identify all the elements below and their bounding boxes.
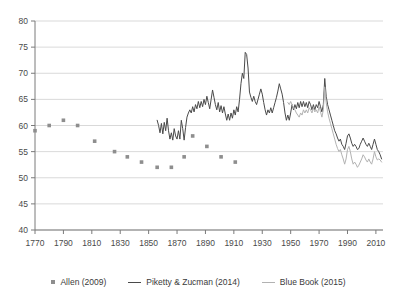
y-tick-label: 70	[19, 68, 29, 78]
x-tick-label: 1770	[26, 238, 45, 248]
square-marker-icon	[51, 280, 55, 284]
scatter-point-allen	[47, 124, 51, 128]
chart-legend: Allen (2009) Piketty & Zucman (2014) Blu…	[0, 277, 397, 287]
x-tick-label: 2010	[366, 238, 385, 248]
scatter-point-allen	[93, 139, 97, 143]
y-tick-label: 75	[19, 42, 29, 52]
x-tick-label: 1930	[253, 238, 272, 248]
chart-container: 4045505560657075801770179018101830185018…	[0, 0, 397, 293]
y-tick-label: 65	[19, 94, 29, 104]
x-tick-label: 1850	[139, 238, 158, 248]
x-tick-label: 1950	[281, 238, 300, 248]
y-tick-label: 80	[19, 16, 29, 26]
x-tick-label: 1790	[54, 238, 73, 248]
x-tick-label: 1890	[196, 238, 215, 248]
scatter-point-allen	[219, 155, 223, 159]
line-light-marker-icon	[262, 282, 275, 283]
scatter-point-allen	[182, 155, 186, 159]
x-tick-label: 1870	[168, 238, 187, 248]
series-line-blue-book	[288, 87, 382, 167]
scatter-point-allen	[113, 150, 117, 154]
legend-label-allen: Allen (2009)	[60, 277, 106, 287]
x-tick-label: 1830	[111, 238, 130, 248]
chart-plot-area: 4045505560657075801770179018101830185018…	[0, 0, 397, 293]
scatter-point-allen	[205, 145, 209, 149]
scatter-point-allen	[62, 118, 66, 122]
scatter-point-allen	[155, 166, 159, 170]
scatter-point-allen	[76, 124, 80, 128]
y-tick-label: 50	[19, 173, 29, 183]
legend-item-allen: Allen (2009)	[51, 277, 106, 287]
x-tick-label: 1910	[224, 238, 243, 248]
y-tick-label: 45	[19, 199, 29, 209]
scatter-point-allen	[33, 129, 37, 133]
x-tick-label: 1970	[310, 238, 329, 248]
scatter-point-allen	[191, 134, 195, 138]
series-line-piketty-zucman	[157, 52, 381, 159]
y-tick-label: 40	[19, 225, 29, 235]
legend-label-piketty: Piketty & Zucman (2014)	[146, 277, 240, 287]
legend-label-bluebook: Blue Book (2015)	[280, 277, 346, 287]
line-marker-icon	[128, 282, 141, 283]
y-tick-label: 60	[19, 121, 29, 131]
x-tick-label: 1810	[82, 238, 101, 248]
scatter-point-allen	[126, 155, 130, 159]
x-tick-label: 1990	[338, 238, 357, 248]
legend-item-bluebook: Blue Book (2015)	[262, 277, 346, 287]
scatter-point-allen	[140, 160, 144, 164]
legend-item-piketty: Piketty & Zucman (2014)	[128, 277, 240, 287]
scatter-point-allen	[170, 166, 174, 170]
scatter-point-allen	[233, 160, 237, 164]
y-tick-label: 55	[19, 147, 29, 157]
